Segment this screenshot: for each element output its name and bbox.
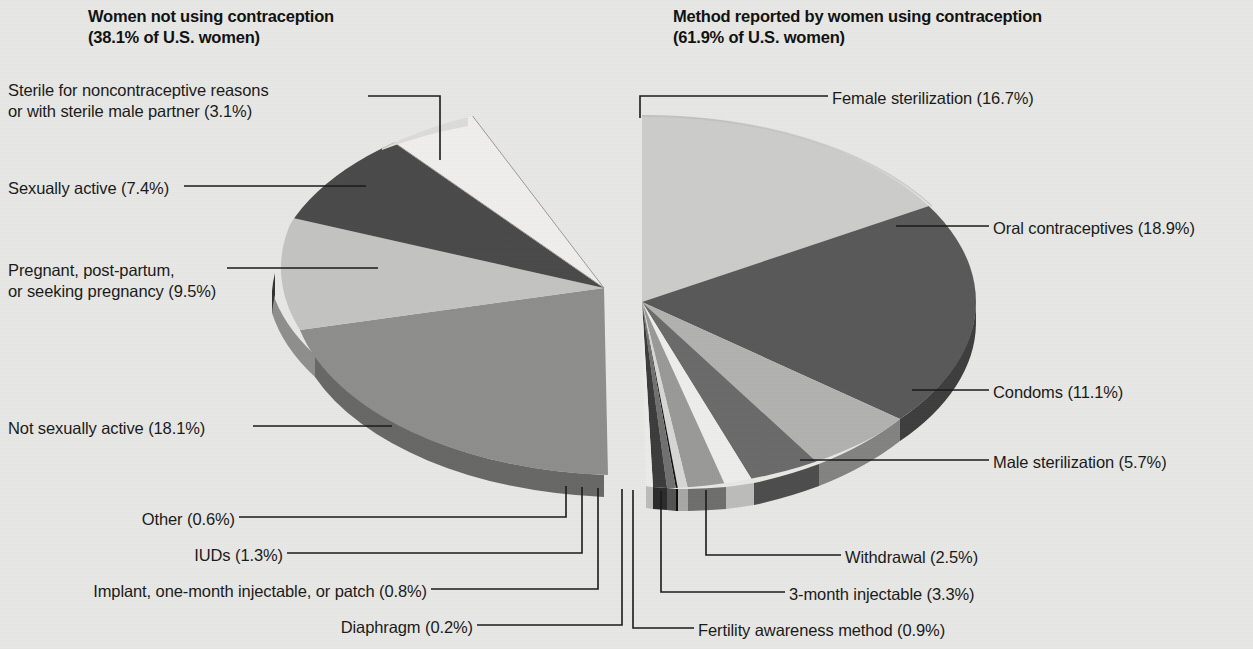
callout-leader-lines: [0, 0, 1253, 649]
leader-3month-injectable: [661, 491, 785, 592]
leader-female-sterilization: [640, 96, 828, 118]
leader-sterile-noncontraceptive: [368, 96, 440, 160]
leader-diaphragm: [477, 489, 622, 625]
leader-fertility-awareness: [633, 490, 694, 628]
leader-withdrawal: [706, 490, 841, 555]
chart-figure: Women not using contraception (38.1% of …: [0, 0, 1253, 649]
leader-other: [239, 486, 566, 517]
leader-implant-patch: [431, 488, 598, 589]
leader-iuds: [287, 487, 582, 553]
